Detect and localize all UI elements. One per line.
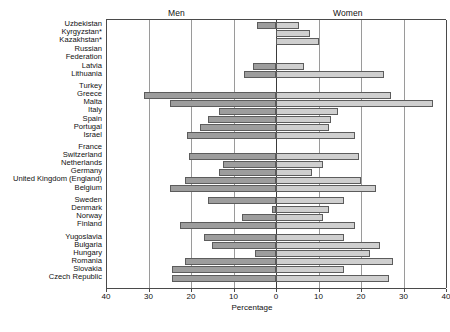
bar-women (276, 124, 329, 131)
chart-row (106, 275, 446, 282)
bar-men (180, 222, 276, 229)
chart-row (106, 222, 446, 229)
bar-men (244, 71, 276, 78)
chart-row (106, 214, 446, 221)
bar-women (276, 222, 355, 229)
x-axis-title: Percentage (0, 303, 446, 312)
category-label: RussianFederation (66, 45, 102, 62)
chart-row (106, 63, 446, 70)
x-tick-label-40: 40 (442, 292, 450, 301)
bar-men (200, 124, 277, 131)
bar-men (242, 214, 276, 221)
bar-women (276, 234, 344, 241)
bar-women (276, 132, 355, 139)
bar-men (170, 100, 276, 107)
bar-men (208, 197, 276, 204)
bar-men (255, 250, 276, 257)
bar-men (257, 22, 276, 29)
chart-row (106, 266, 446, 273)
chart-row (106, 108, 446, 115)
gridline-40 (446, 20, 447, 288)
bar-men (204, 234, 276, 241)
chart-row (106, 234, 446, 241)
bar-women (276, 161, 323, 168)
bar-women (276, 242, 380, 249)
bar-women (276, 214, 323, 221)
x-tick-label--10: 10 (229, 292, 238, 301)
women-series-header: Women (333, 8, 363, 18)
category-label: Czech Republic (49, 273, 102, 282)
x-tick-label-10: 10 (314, 292, 323, 301)
category-label: Israel (83, 131, 102, 140)
x-tick-label-0: 0 (274, 292, 278, 301)
chart-row (106, 71, 446, 78)
category-label: Lithuania (71, 70, 102, 79)
bar-men (253, 63, 276, 70)
chart-row (106, 22, 446, 29)
bar-women (276, 258, 393, 265)
category-label-column: UzbekistanKyrgyzstan*Kazakhstan*RussianF… (0, 19, 102, 289)
bar-women (276, 63, 304, 70)
bar-women (276, 250, 370, 257)
bar-men (219, 108, 276, 115)
chart-row (106, 206, 446, 213)
chart-row (106, 258, 446, 265)
chart-row (106, 250, 446, 257)
chart-row (106, 145, 446, 152)
bar-women (276, 116, 331, 123)
plot-area (106, 19, 446, 289)
bar-men (223, 161, 276, 168)
bar-women (276, 30, 310, 37)
bar-women (276, 185, 376, 192)
x-tick-label--30: 30 (144, 292, 153, 301)
bar-men (185, 177, 276, 184)
bar-women (276, 38, 319, 45)
bar-women (276, 169, 312, 176)
x-tick-label-20: 20 (357, 292, 366, 301)
chart-row (106, 124, 446, 131)
bar-men (185, 258, 276, 265)
bar-women (276, 108, 338, 115)
chart-row (106, 84, 446, 91)
bar-women (276, 153, 359, 160)
chart-row (106, 38, 446, 45)
chart-row (106, 30, 446, 37)
category-label: Belgium (75, 184, 102, 193)
x-tick-label-30: 30 (399, 292, 408, 301)
bar-men (208, 116, 276, 123)
bar-men (212, 242, 276, 249)
bar-women (276, 71, 384, 78)
category-label: Finland (77, 220, 102, 229)
bar-women (276, 22, 299, 29)
chart-row (106, 185, 446, 192)
bar-men (187, 132, 276, 139)
chart-row (106, 161, 446, 168)
bar-men (189, 153, 276, 160)
chart-row (106, 50, 446, 57)
bar-men (172, 275, 276, 282)
bar-women (276, 266, 344, 273)
bar-women (276, 92, 391, 99)
bar-women (276, 206, 329, 213)
chart-row (106, 242, 446, 249)
chart-row (106, 169, 446, 176)
chart-row (106, 100, 446, 107)
bar-men (170, 185, 276, 192)
bar-women (276, 177, 361, 184)
bar-women (276, 100, 433, 107)
chart-row (106, 132, 446, 139)
bar-men (219, 169, 276, 176)
x-tick-label--40: 40 (102, 292, 111, 301)
bar-women (276, 197, 344, 204)
x-axis: 40302010010203040 (106, 289, 446, 303)
bar-men (172, 266, 276, 273)
x-tick-label--20: 20 (187, 292, 196, 301)
chart-row (106, 177, 446, 184)
chart-row (106, 116, 446, 123)
chart-row (106, 153, 446, 160)
bar-men (144, 92, 276, 99)
chart-row (106, 197, 446, 204)
bar-women (276, 275, 389, 282)
chart-row (106, 92, 446, 99)
